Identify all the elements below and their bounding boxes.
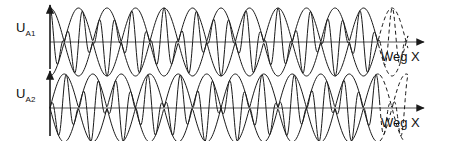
trace-group-ua1	[50, 5, 424, 76]
trace-group-ua2	[50, 71, 424, 141]
envelope-upper-ua1	[50, 8, 379, 41]
envelope-lower-ua1	[50, 43, 379, 76]
waveform-plot	[0, 0, 450, 141]
figure-canvas: UA1 UA2 Weg X Weg X	[0, 0, 450, 141]
envelope-lower-ua2	[50, 108, 379, 141]
carrier-dashed-ua2	[380, 76, 408, 136]
carrier-dashed-ua1	[380, 8, 408, 65]
envelope-lower-dashed-ua1	[380, 43, 408, 76]
